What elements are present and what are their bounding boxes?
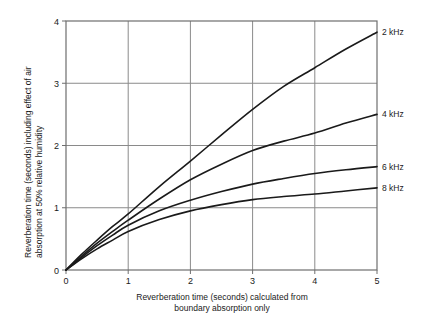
y-tick-label: 3 — [54, 79, 59, 89]
y-tick-label: 4 — [54, 17, 59, 27]
series-label-8-khz: 8 kHz — [382, 183, 404, 193]
x-tick-label: 0 — [63, 276, 68, 286]
x-tick-label: 4 — [312, 276, 317, 286]
x-tick-label: 2 — [188, 276, 193, 286]
series-label-2-khz: 2 kHz — [382, 27, 404, 37]
x-axis-title-line1: Reverberation time (seconds) calculated … — [136, 292, 308, 302]
y-tick-label: 1 — [54, 203, 59, 213]
series-label-4-khz: 4 kHz — [382, 109, 404, 119]
x-tick-label: 3 — [250, 276, 255, 286]
x-tick-label: 5 — [374, 276, 379, 286]
y-axis-title-line1: Reverberation time (seconds) including e… — [23, 66, 33, 258]
y-tick-label: 2 — [54, 141, 59, 151]
series-label-6-khz: 6 kHz — [382, 162, 404, 172]
y-axis-title-line2: absorption at 50% relative humidity — [34, 125, 44, 258]
x-axis-title-line2: boundary absorption only — [174, 303, 270, 313]
chart-figure: 012345 01234 2 kHz4 kHz6 kHz8 kHz Reverb… — [0, 0, 422, 332]
reverberation-time-line-chart: 012345 01234 2 kHz4 kHz6 kHz8 kHz Reverb… — [0, 0, 422, 332]
x-tick-label: 1 — [126, 276, 131, 286]
y-tick-label: 0 — [54, 266, 59, 276]
